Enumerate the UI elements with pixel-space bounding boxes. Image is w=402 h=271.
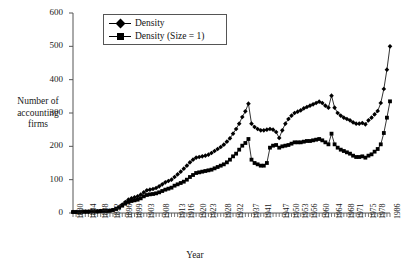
x-tick-label: 1928 [224, 204, 233, 219]
x-tick-label: 1975 [369, 204, 378, 219]
x-tick-label: 1892 [113, 204, 122, 219]
x-tick-label: 1947 [282, 204, 291, 219]
x-tick-label: 1937 [252, 204, 261, 219]
y-tick-label: 300 [35, 107, 63, 117]
legend-item-density-size1: Density (Size = 1) [109, 30, 204, 43]
x-tick-label: 1986 [393, 204, 402, 219]
x-tick-label: 1908 [162, 204, 171, 219]
y-tick-label: 600 [35, 7, 63, 17]
square-marker-icon [109, 31, 131, 42]
x-tick-label: 1950 [292, 204, 301, 219]
x-tick-label: 1888 [101, 204, 110, 219]
x-tick-label: 1923 [209, 204, 218, 219]
x-axis-title: Year [160, 250, 230, 260]
x-tick-label: 1880 [76, 204, 85, 219]
legend: Density Density (Size = 1) [103, 14, 227, 45]
diamond-marker-icon [109, 18, 131, 29]
y-tick-label: 500 [35, 40, 63, 50]
legend-label-density: Density [135, 17, 165, 30]
y-axis-title-line-3: firms [2, 119, 74, 131]
x-tick-label: 1968 [347, 204, 356, 219]
legend-item-density: Density [109, 17, 165, 30]
y-tick-label: 400 [35, 74, 63, 84]
y-tick-label: 200 [35, 140, 63, 150]
y-tick-label: 0 [35, 207, 63, 217]
y-axis-title-line-1: Number of [2, 96, 74, 108]
x-tick-label: 1913 [178, 204, 187, 219]
x-tick-label: 1941 [264, 204, 273, 219]
legend-label-density-size1: Density (Size = 1) [135, 30, 204, 43]
x-tick-label: 1903 [147, 204, 156, 219]
x-tick-label: 1884 [89, 204, 98, 219]
x-tick-label: 1916 [187, 204, 196, 219]
x-tick-label: 1964 [335, 204, 344, 219]
x-tick-label: 1953 [301, 204, 310, 219]
x-tick-label: 1920 [199, 204, 208, 219]
x-tick-label: 1899 [135, 204, 144, 219]
x-tick-label: 1896 [125, 204, 134, 219]
x-tick-label: 1978 [378, 204, 387, 219]
x-tick-label: 1956 [310, 204, 319, 219]
x-tick-label: 1960 [322, 204, 331, 219]
y-tick-label: 100 [35, 174, 63, 184]
x-tick-label: 1971 [356, 204, 365, 219]
x-tick-label: 1932 [236, 204, 245, 219]
